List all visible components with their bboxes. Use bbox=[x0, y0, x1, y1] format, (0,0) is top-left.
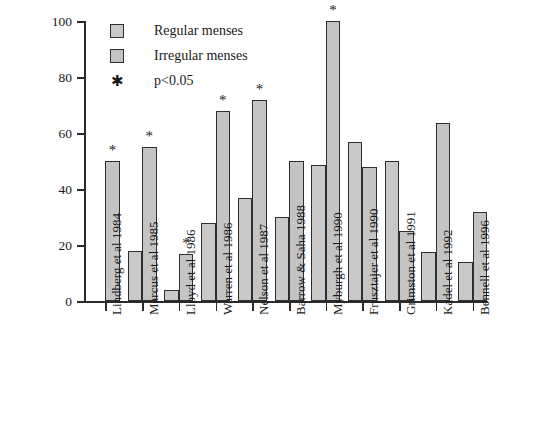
x-tick-mark bbox=[105, 303, 107, 311]
y-tick-mark bbox=[77, 245, 84, 247]
bar-regular-menses bbox=[128, 251, 143, 301]
bar-regular-menses bbox=[421, 252, 436, 301]
x-tick-mark bbox=[289, 303, 291, 311]
bar-regular-menses bbox=[201, 223, 216, 302]
bar-regular-menses bbox=[311, 165, 326, 301]
y-tick-mark bbox=[77, 133, 84, 135]
bar-regular-menses bbox=[164, 290, 179, 301]
x-tick-label: Warren et al 1986 bbox=[221, 223, 234, 315]
significance-asterisk: * bbox=[215, 93, 231, 108]
bar-regular-menses bbox=[348, 142, 363, 302]
x-tick-label: Grimston et al 1991 bbox=[404, 211, 417, 315]
significance-asterisk: * bbox=[325, 3, 341, 18]
x-tick-mark bbox=[473, 303, 475, 311]
x-tick-mark bbox=[362, 303, 364, 311]
x-tick-mark bbox=[252, 303, 254, 311]
bar-regular-menses bbox=[458, 262, 473, 301]
significance-asterisk: * bbox=[105, 143, 121, 158]
x-tick-mark bbox=[436, 303, 438, 311]
x-tick-mark bbox=[142, 303, 144, 311]
y-tick-mark bbox=[77, 77, 84, 79]
y-tick-mark bbox=[77, 21, 84, 23]
x-tick-mark bbox=[179, 303, 181, 311]
y-tick-mark bbox=[77, 301, 84, 303]
plot-area: 020406080100 ****** Lindberg et al 1984M… bbox=[84, 21, 488, 303]
y-tick-label: 60 bbox=[30, 127, 72, 141]
x-tick-mark bbox=[399, 303, 401, 311]
x-tick-label: Frusztajer et al 1990 bbox=[367, 209, 380, 316]
x-tick-label: Lloyd et al 1986 bbox=[184, 229, 197, 315]
x-tick-label: Myburgh et al 1990 bbox=[331, 212, 344, 315]
y-tick-label: 100 bbox=[30, 15, 72, 29]
x-tick-label: Lindberg et al 1984 bbox=[110, 213, 123, 315]
stress-fracture-bar-chart: % of athletes with stress fractures Regu… bbox=[0, 0, 539, 436]
x-tick-label: Marcus et al 1985 bbox=[147, 221, 160, 315]
y-tick-label: 0 bbox=[30, 295, 72, 309]
bar-regular-menses bbox=[385, 161, 400, 301]
x-axis-line bbox=[84, 301, 488, 303]
bar-regular-menses bbox=[275, 217, 290, 301]
y-tick-label: 20 bbox=[30, 239, 72, 253]
x-tick-mark bbox=[216, 303, 218, 311]
x-tick-label: Barrow & Saha 1988 bbox=[294, 205, 307, 315]
x-tick-mark bbox=[326, 303, 328, 311]
y-tick-label: 40 bbox=[30, 183, 72, 197]
bar-regular-menses bbox=[238, 198, 253, 302]
y-tick-mark bbox=[77, 189, 84, 191]
x-tick-label: Bennell et al 1996 bbox=[478, 220, 491, 315]
significance-asterisk: * bbox=[252, 82, 268, 97]
x-tick-label: Nelson et al 1987 bbox=[257, 224, 270, 315]
significance-asterisk: * bbox=[141, 129, 157, 144]
y-tick-label: 80 bbox=[30, 71, 72, 85]
y-axis-line bbox=[84, 21, 86, 303]
x-tick-label: Kadel et al 1992 bbox=[441, 229, 454, 315]
